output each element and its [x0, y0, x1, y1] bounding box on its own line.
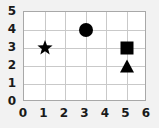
x-tick-label: 0 — [16, 107, 30, 119]
data-point-square — [119, 40, 135, 56]
y-tick-label: 1 — [2, 77, 16, 89]
x-tick-label: 3 — [78, 107, 92, 119]
plot-area — [23, 11, 146, 101]
gridline-horizontal — [24, 84, 145, 85]
gridline-vertical — [45, 12, 46, 100]
y-tick-label: 5 — [2, 5, 16, 17]
scatter-plot-chart: 0123456 012345 — [0, 0, 159, 128]
y-tick-label: 0 — [2, 95, 16, 107]
gridline-vertical — [127, 12, 128, 100]
x-tick-label: 1 — [37, 107, 51, 119]
data-point-circle — [78, 22, 94, 38]
gridline-vertical — [65, 12, 66, 100]
y-tick-label: 4 — [2, 23, 16, 35]
data-point-triangle — [119, 58, 135, 74]
x-tick-label: 6 — [139, 107, 153, 119]
x-tick-label: 5 — [119, 107, 133, 119]
y-tick-label: 2 — [2, 59, 16, 71]
y-tick-label: 3 — [2, 41, 16, 53]
x-tick-label: 4 — [98, 107, 112, 119]
data-point-star — [37, 40, 53, 56]
gridline-vertical — [106, 12, 107, 100]
x-tick-label: 2 — [57, 107, 71, 119]
